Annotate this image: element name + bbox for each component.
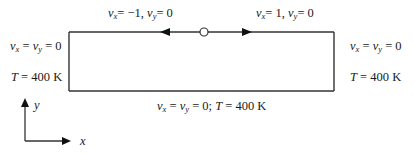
x-axis-label: x — [80, 135, 86, 148]
temp-symbol: T — [350, 70, 357, 84]
zero: = 0; — [189, 99, 215, 113]
lid-center-point — [200, 28, 208, 36]
temp-value: = 400 K — [357, 70, 401, 84]
top-left-lid-label: vx= −1, vy= 0 — [108, 7, 173, 20]
left-wall-velocity-label: vx = vy = 0 — [10, 40, 62, 53]
vy-value: = 0 — [297, 6, 313, 20]
zero: = 0 — [42, 39, 62, 53]
left-arrow-head — [160, 28, 170, 36]
zero: = 0 — [382, 39, 402, 53]
top-right-lid-label: vx= 1, vy= 0 — [256, 7, 314, 20]
right-wall-velocity-label: vx = vy = 0 — [350, 40, 402, 53]
right-wall-temperature-label: T = 400 K — [350, 71, 401, 84]
temp-symbol: T — [11, 70, 18, 84]
x-axis-arrow-icon — [62, 137, 71, 145]
vx-value: = −1, — [117, 6, 144, 20]
bottom-wall-label: vx = vy = 0; T = 400 K — [157, 100, 266, 113]
equals: = — [19, 39, 32, 53]
y-axis-arrow-icon — [21, 98, 29, 107]
left-wall-temperature-label: T = 400 K — [11, 71, 62, 84]
temp-value: = 400 K — [222, 99, 266, 113]
equals: = — [166, 99, 179, 113]
vx-value: = 1, — [265, 6, 285, 20]
right-arrow-head — [242, 28, 252, 36]
temp-value: = 400 K — [18, 70, 62, 84]
equals: = — [359, 39, 372, 53]
vy-value: = 0 — [156, 6, 172, 20]
y-axis-label: y — [34, 99, 40, 112]
